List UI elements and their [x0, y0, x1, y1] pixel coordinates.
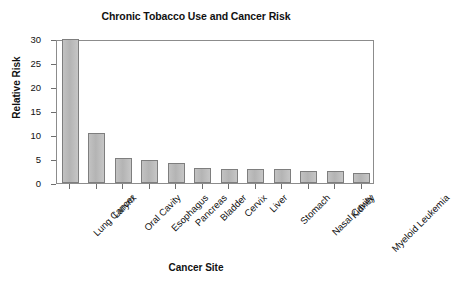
- x-axis-tick-mark: [122, 184, 123, 189]
- bar: [141, 160, 158, 183]
- bar: [247, 169, 264, 183]
- x-axis-tick-label: Liver: [267, 192, 289, 214]
- x-axis-tick-label-text: Stomach: [298, 192, 332, 226]
- x-axis-tick-mark: [228, 184, 229, 189]
- y-axis-tick-label: 25: [30, 58, 41, 69]
- chart-title: Chronic Tobacco Use and Cancer Risk: [0, 10, 392, 22]
- bar: [115, 158, 132, 183]
- x-axis-tick-label-text: Liver: [267, 192, 289, 214]
- y-axis-tick-label: 10: [30, 130, 41, 141]
- x-axis-title: Cancer Site: [0, 262, 392, 273]
- plot-area: [56, 40, 374, 184]
- bar: [221, 169, 238, 183]
- x-axis-tick-mark: [96, 184, 97, 189]
- x-axis-tick-mark: [308, 184, 309, 189]
- y-axis-tick-label: 20: [30, 82, 41, 93]
- x-axis-tick-mark: [202, 184, 203, 189]
- x-axis-tick-mark: [255, 184, 256, 189]
- bars-container: [57, 41, 373, 183]
- y-axis-tick-label: 15: [30, 106, 41, 117]
- x-axis-tick-mark: [281, 184, 282, 189]
- x-axis-tick-label: Cervix: [242, 192, 269, 219]
- x-axis-tick-mark: [361, 184, 362, 189]
- x-axis-tick-label-text: Kidney: [349, 192, 377, 220]
- x-axis-tick-label-text: Myeloid Leukemia: [389, 192, 451, 254]
- bar: [62, 39, 79, 183]
- y-axis-tick-label: 5: [36, 154, 41, 165]
- x-axis-tick-mark: [149, 184, 150, 189]
- bar: [274, 169, 291, 183]
- y-axis-tick-mark: [51, 184, 56, 185]
- bar: [353, 173, 370, 183]
- bar: [327, 171, 344, 183]
- x-axis-tick-label: Kidney: [349, 192, 377, 220]
- x-axis-tick-label: Myeloid Leukemia: [389, 192, 451, 254]
- x-axis-tick-mark: [334, 184, 335, 189]
- bar: [194, 168, 211, 183]
- bar: [168, 163, 185, 183]
- y-axis-title: Relative Risk: [11, 38, 22, 138]
- y-axis-tick-label: 0: [36, 178, 41, 189]
- x-axis-tick-label: Stomach: [298, 192, 332, 226]
- x-axis-tick-mark: [69, 184, 70, 189]
- x-axis-tick-label-text: Cervix: [242, 192, 269, 219]
- x-axis-tick-mark: [175, 184, 176, 189]
- y-axis-tick-label: 30: [30, 34, 41, 45]
- bar: [300, 171, 317, 183]
- bar: [88, 133, 105, 183]
